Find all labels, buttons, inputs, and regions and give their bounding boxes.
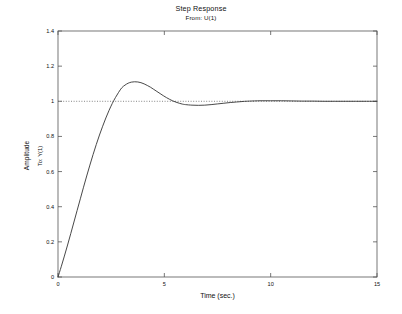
axis-frame bbox=[58, 31, 377, 277]
x-tick-label: 5 bbox=[163, 281, 166, 287]
x-tick-label: 10 bbox=[268, 281, 274, 287]
y-tick-label: 0.4 bbox=[46, 204, 54, 210]
y-tick-label: 0 bbox=[51, 274, 54, 280]
x-tick-label: 15 bbox=[374, 281, 380, 287]
y-tick-label: 0.8 bbox=[46, 133, 54, 139]
y-tick-group: 00.20.40.60.811.21.4 bbox=[46, 28, 377, 280]
y-tick-label: 0.6 bbox=[46, 169, 54, 175]
axes-box bbox=[58, 31, 377, 277]
x-tick-group: 051015 bbox=[56, 31, 380, 287]
y-tick-label: 1.2 bbox=[46, 63, 54, 69]
step-response-curve bbox=[58, 82, 377, 277]
figure-canvas: Step Response From: U(1) Amplitude To: Y… bbox=[0, 0, 402, 314]
y-tick-label: 1.4 bbox=[46, 28, 54, 34]
plot-area: 00.20.40.60.811.21.4 051015 bbox=[0, 0, 402, 314]
y-tick-label: 0.2 bbox=[46, 239, 54, 245]
x-tick-label: 0 bbox=[56, 281, 59, 287]
y-tick-label: 1 bbox=[51, 98, 54, 104]
